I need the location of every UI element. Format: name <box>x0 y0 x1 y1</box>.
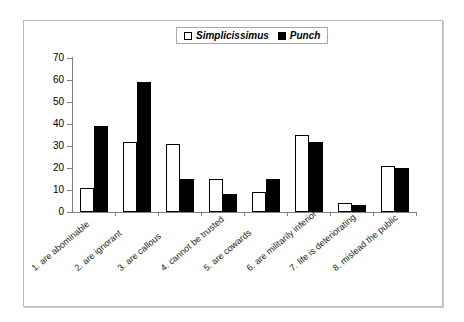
x-axis-label-6: 6. are militarily inferior <box>245 210 318 273</box>
y-axis-tick-label: 60 <box>40 75 64 85</box>
y-axis-tick-label: 30 <box>40 141 64 151</box>
y-axis-tick <box>67 80 72 81</box>
bar-punch-8 <box>395 168 409 212</box>
bar-punch-5 <box>266 179 280 212</box>
y-axis-tick <box>67 102 72 103</box>
bar-simplicissimus-4 <box>209 179 223 212</box>
x-axis-line <box>67 212 417 213</box>
bar-punch-2 <box>137 82 151 212</box>
y-axis-tick <box>67 146 72 147</box>
x-axis-tick <box>158 212 159 216</box>
chart-legend: Simplicissimus Punch <box>176 27 328 44</box>
bar-simplicissimus-6 <box>295 135 309 212</box>
x-axis-tick <box>201 212 202 216</box>
y-axis-tick <box>67 212 72 213</box>
x-axis-tick <box>287 212 288 216</box>
y-axis-tick <box>67 190 72 191</box>
y-axis-tick-label: 40 <box>40 119 64 129</box>
x-axis-tick <box>244 212 245 216</box>
legend-swatch-white-square-icon <box>184 32 192 40</box>
x-axis-label-3: 3. are callous <box>116 232 163 273</box>
plot-area <box>72 58 416 212</box>
x-axis-tick <box>115 212 116 216</box>
legend-entry-simplicissimus: Simplicissimus <box>184 31 269 41</box>
legend-entry-punch: Punch <box>278 31 321 41</box>
bar-simplicissimus-8 <box>381 166 395 212</box>
x-axis-tick <box>416 212 417 216</box>
y-axis-tick-label: 70 <box>40 53 64 63</box>
y-axis-tick-label: 0 <box>40 207 64 217</box>
bar-simplicissimus-2 <box>123 142 137 212</box>
y-axis-tick-label: 10 <box>40 185 64 195</box>
y-axis-tick-label: 50 <box>40 97 64 107</box>
y-axis-tick-label: 20 <box>40 163 64 173</box>
bar-punch-6 <box>309 142 323 212</box>
figure-frame: Simplicissimus Punch 010203040506070 1. … <box>23 20 443 307</box>
x-axis-tick <box>373 212 374 216</box>
y-axis-tick <box>67 58 72 59</box>
bar-punch-4 <box>223 194 237 212</box>
chart-screenshot: Simplicissimus Punch 010203040506070 1. … <box>0 0 464 322</box>
bar-simplicissimus-3 <box>166 144 180 212</box>
bar-simplicissimus-1 <box>80 188 94 212</box>
bar-punch-3 <box>180 179 194 212</box>
legend-swatch-black-square-icon <box>278 32 286 40</box>
x-axis-tick <box>330 212 331 216</box>
bar-punch-7 <box>352 205 366 212</box>
legend-label-punch: Punch <box>290 31 321 41</box>
bar-simplicissimus-5 <box>252 192 266 212</box>
bar-simplicissimus-7 <box>338 203 352 212</box>
legend-label-simplicissimus: Simplicissimus <box>196 31 269 41</box>
y-axis-tick <box>67 124 72 125</box>
bar-punch-1 <box>94 126 108 212</box>
y-axis-tick <box>67 168 72 169</box>
